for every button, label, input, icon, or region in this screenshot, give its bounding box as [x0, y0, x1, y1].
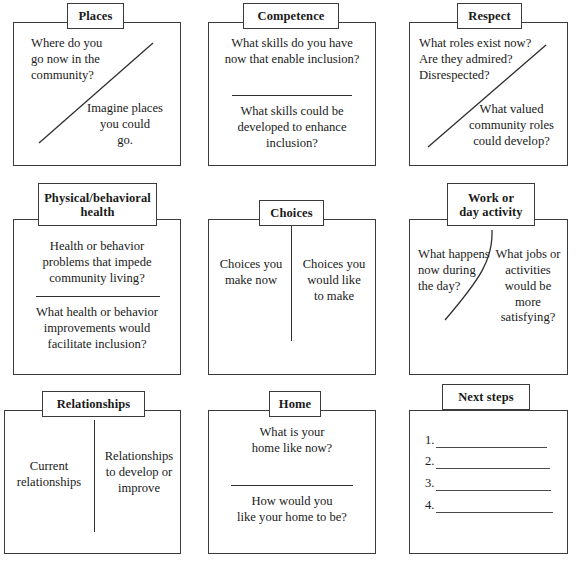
- panel-relationships-question-current: Current relationships: [7, 459, 91, 491]
- panel-choices-tab[interactable]: Choices: [259, 200, 324, 226]
- panel-work-or-day-activity-tab-label: Work or day activity: [457, 191, 525, 219]
- panel-respect-question-future: What valued community roles could develo…: [459, 102, 564, 150]
- panel-physical-behavioral-health-question-now: Health or behavior problems that impede …: [21, 239, 173, 287]
- panel-choices-content: Choices you make now Choices you would l…: [208, 200, 376, 375]
- panel-places[interactable]: Places Where do you go now in the commun…: [13, 3, 181, 166]
- panel-respect-tab-label: Respect: [468, 9, 510, 23]
- panel-next-steps-tab-label: Next steps: [458, 390, 514, 404]
- panel-respect-question-now: What roles exist now? Are they admired? …: [419, 36, 539, 84]
- next-step-row[interactable]: 2.: [425, 454, 550, 469]
- next-step-blank-line[interactable]: [436, 479, 551, 491]
- next-step-blank-line[interactable]: [436, 436, 547, 448]
- panel-competence-question-future: What skills could be developed to enhanc…: [215, 104, 369, 152]
- next-step-row[interactable]: 3.: [425, 476, 551, 491]
- panel-choices-divider: [291, 226, 292, 341]
- next-step-number: 2.: [425, 454, 435, 469]
- panel-places-question-now: Where do you go now in the community?: [31, 36, 131, 84]
- panel-home-divider: [231, 485, 353, 486]
- panel-home-tab[interactable]: Home: [269, 391, 321, 417]
- panel-next-steps[interactable]: Next steps 1. 2. 3. 4.: [409, 384, 568, 554]
- panel-relationships-divider: [94, 420, 95, 532]
- panel-competence-divider: [232, 95, 352, 96]
- panel-competence[interactable]: Competence What skills do you have now t…: [208, 3, 376, 166]
- panel-choices-question-future: Choices you would like to make: [296, 257, 372, 305]
- panel-relationships-tab-label: Relationships: [57, 397, 131, 411]
- panel-next-steps-tab[interactable]: Next steps: [442, 384, 530, 410]
- panel-physical-behavioral-health-tab[interactable]: Physical/behavioral health: [38, 183, 157, 226]
- panel-competence-question-now: What skills do you have now that enable …: [215, 36, 369, 68]
- next-step-blank-line[interactable]: [436, 457, 550, 469]
- panel-respect[interactable]: Respect What roles exist now? Are they a…: [409, 3, 568, 166]
- panel-work-or-day-activity[interactable]: Work or day activity What happens now du…: [409, 183, 568, 375]
- panel-places-question-future: Imagine places you could go.: [75, 101, 175, 149]
- next-step-number: 1.: [425, 433, 435, 448]
- next-step-number: 4.: [425, 498, 435, 513]
- next-step-row[interactable]: 1.: [425, 433, 547, 448]
- panel-work-or-day-activity-question-future: What jobs or activities would be more sa…: [492, 247, 564, 326]
- panel-work-or-day-activity-tab[interactable]: Work or day activity: [447, 183, 535, 226]
- panel-respect-tab[interactable]: Respect: [457, 3, 522, 29]
- panel-places-tab-label: Places: [79, 9, 113, 23]
- panel-places-tab[interactable]: Places: [67, 3, 124, 29]
- panel-home[interactable]: Home What is your home like now? How wou…: [208, 391, 376, 554]
- panel-choices-tab-label: Choices: [270, 206, 312, 220]
- panel-choices-question-now: Choices you make now: [214, 257, 288, 289]
- panel-physical-behavioral-health[interactable]: Physical/behavioral health Health or beh…: [13, 183, 181, 375]
- panel-competence-tab-label: Competence: [258, 9, 325, 23]
- panel-physical-behavioral-health-question-future: What health or behavior improvements wou…: [17, 305, 177, 353]
- panel-choices[interactable]: Choices Choices you make now Choices you…: [208, 200, 376, 375]
- panel-work-or-day-activity-question-now: What happens now during the day?: [418, 247, 494, 295]
- panel-home-question-future: How would you like your home to be?: [212, 494, 372, 526]
- next-step-row[interactable]: 4.: [425, 498, 553, 513]
- panel-relationships-question-future: Relationships to develop or improve: [98, 449, 180, 497]
- panel-home-tab-label: Home: [279, 397, 311, 411]
- worksheet-sheet: Places Where do you go now in the commun…: [0, 0, 586, 571]
- panel-home-question-now: What is your home like now?: [215, 425, 369, 457]
- panel-physical-behavioral-health-divider: [36, 296, 160, 297]
- next-step-blank-line[interactable]: [436, 501, 553, 513]
- panel-physical-behavioral-health-tab-label: Physical/behavioral health: [44, 191, 151, 219]
- panel-competence-tab[interactable]: Competence: [243, 3, 339, 29]
- panel-relationships[interactable]: Relationships Current relationships Rela…: [4, 391, 181, 554]
- next-step-number: 3.: [425, 476, 435, 491]
- panel-relationships-tab[interactable]: Relationships: [42, 391, 145, 417]
